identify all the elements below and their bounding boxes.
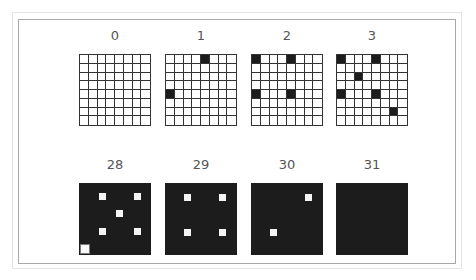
grid-cell [313,245,322,254]
grid-cell [201,81,210,90]
grid-cell [80,235,90,244]
grid-cell [89,73,98,82]
grid-cell [80,108,89,117]
grid-cell [363,184,372,193]
grid-cell [346,90,355,99]
grid-cell [287,90,296,99]
grid-cell [133,90,142,99]
grid-cell [219,193,228,202]
grid-cell [390,64,399,73]
grid-cell [381,90,390,99]
grid-cell [296,245,305,254]
grid-cell [313,228,322,237]
grid-cell [133,244,142,254]
grid-cell [313,210,322,219]
grid-cell [270,228,279,237]
grid-cell [219,73,228,82]
grid-cell [372,202,381,211]
grid-cell [124,108,133,117]
grid-cell [116,201,125,210]
grid-cell [192,108,201,117]
grid-cell [184,73,193,82]
grid-cell [141,244,150,254]
grid-cell [363,99,372,108]
grid-cell [372,55,381,64]
grid-cell [305,219,314,228]
grid-cell [398,116,407,125]
grid-cell [278,64,287,73]
grid-cell [80,55,89,64]
grid-cell [390,210,399,219]
grid-cell [252,108,261,117]
grid-cell [115,81,124,90]
grid-cell [381,64,390,73]
pattern-grid [165,183,237,255]
grid-cell [252,64,261,73]
grid-cell [175,237,184,246]
grid-cell [305,193,314,202]
grid-cell [227,202,236,211]
grid-cell [107,201,116,210]
grid-cell [201,99,210,108]
grid-cell [201,184,210,193]
grid-cell [305,210,314,219]
grid-cell [278,210,287,219]
grid-cell [270,64,279,73]
grid-cell [398,81,407,90]
grid-cell [166,99,175,108]
grid-cell [184,193,193,202]
grid-cell [296,237,305,246]
grid-cell [337,245,346,254]
grid-cell [201,202,210,211]
grid-cell [261,228,270,237]
grid-cell [98,116,107,125]
pattern-grid [79,54,151,126]
grid-cell [98,81,107,90]
grid-cell [192,73,201,82]
grid-cell [270,245,279,254]
grid-cell [296,99,305,108]
grid-cell [133,210,142,219]
grid-cell [192,64,201,73]
grid-cell [296,219,305,228]
panel-label: 29 [165,157,237,173]
grid-cell [116,218,125,227]
grid-cell [106,99,115,108]
grid-cell [201,237,210,246]
grid-cell [305,237,314,246]
grid-cell [372,108,381,117]
grid-cell [346,193,355,202]
grid-cell [381,219,390,228]
grid-cell [219,90,228,99]
grid-cell [390,116,399,125]
grid-cell [141,218,150,227]
grid-cell [355,237,364,246]
grid-cell [252,99,261,108]
grid-cell [372,245,381,254]
grid-cell [346,64,355,73]
grid-cell [363,210,372,219]
grid-cell [313,99,322,108]
grid-cell [363,108,372,117]
grid-cell [363,193,372,202]
grid-cell [252,90,261,99]
grid-cell [305,99,314,108]
grid-cell [296,228,305,237]
grid-cell [287,184,296,193]
grid-cell [80,184,90,193]
grid-cell [115,55,124,64]
panel-label: 28 [79,157,151,173]
grid-cell [252,219,261,228]
grid-cell [175,108,184,117]
grid-cell [166,219,175,228]
grid-cell [305,64,314,73]
grid-cell [227,55,236,64]
grid-cell [133,193,142,202]
grid-cell [278,193,287,202]
grid-cell [175,245,184,254]
grid-cell [287,81,296,90]
grid-cell [278,73,287,82]
grid-cell [252,210,261,219]
grid-cell [398,73,407,82]
grid-cell [398,202,407,211]
